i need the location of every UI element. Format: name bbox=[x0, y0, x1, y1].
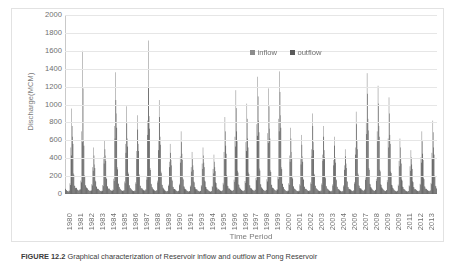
y-axis-tick-label: 600 bbox=[28, 136, 62, 144]
x-axis-tick-label: 1983 bbox=[99, 213, 106, 230]
x-axis-tick-label: 1987 bbox=[143, 213, 150, 230]
y-axis-tick-label: 1600 bbox=[28, 47, 62, 55]
chart-frame: Discharge(MCM) 0200400600800100012001400… bbox=[11, 8, 444, 242]
x-axis-tick-label: 1990 bbox=[176, 213, 183, 230]
y-axis-tick-label: 200 bbox=[28, 172, 62, 180]
x-axis-tick-label: 1980 bbox=[66, 213, 73, 230]
y-axis-tick-label: 1800 bbox=[28, 29, 62, 37]
x-axis-tick-label: 2012 bbox=[417, 213, 424, 230]
x-axis-tick-label: 1998 bbox=[263, 213, 270, 230]
x-axis-tick-label: 2004 bbox=[340, 213, 347, 230]
x-axis-tick-label: 1982 bbox=[88, 213, 95, 230]
x-axis-tick-labels: 1980198119821983198419851986198719881989… bbox=[65, 196, 437, 230]
legend-label: outflow bbox=[297, 48, 321, 57]
x-axis-tick-label: 1985 bbox=[121, 213, 128, 230]
legend-label: inflow bbox=[258, 48, 277, 57]
x-axis-tick-label: 1986 bbox=[132, 213, 139, 230]
x-axis-tick-label: 2006 bbox=[351, 213, 358, 230]
gridline bbox=[65, 176, 437, 177]
legend-entry-inflow[interactable]: inflow bbox=[250, 48, 277, 57]
gridline bbox=[65, 140, 437, 141]
x-axis-tick-label: 2009 bbox=[384, 213, 391, 230]
y-axis-tick-label: 800 bbox=[28, 118, 62, 126]
x-axis-tick-label: 1991 bbox=[187, 213, 194, 230]
x-axis-tick-label: 2001 bbox=[296, 213, 303, 230]
x-axis-tick-label: 2003 bbox=[318, 213, 325, 230]
legend-swatch-icon bbox=[290, 50, 295, 55]
y-axis-tick-label: 1400 bbox=[28, 65, 62, 73]
y-axis-tick-labels: 0200400600800100012001400160018002000 bbox=[28, 15, 62, 194]
x-axis-tick-label: 1996 bbox=[242, 213, 249, 230]
figure-container: Discharge(MCM) 0200400600800100012001400… bbox=[0, 0, 454, 266]
x-axis-tick-label: 1993 bbox=[198, 213, 205, 230]
x-axis-tick-label: 2009 bbox=[395, 213, 402, 230]
x-axis-tick-label: 1999 bbox=[274, 213, 281, 230]
x-axis-tick-label: 2002 bbox=[307, 213, 314, 230]
x-axis-tick-label: 1995 bbox=[220, 213, 227, 230]
gridline bbox=[65, 105, 437, 106]
figure-caption-label: FIGURE 12.2 bbox=[21, 252, 65, 261]
legend-entry-outflow[interactable]: outflow bbox=[290, 48, 322, 57]
gridline bbox=[65, 33, 437, 34]
x-axis-tick-label: 1994 bbox=[209, 213, 216, 230]
y-axis-tick-label: 2000 bbox=[28, 11, 62, 19]
x-axis-tick-label: 2007 bbox=[362, 213, 369, 230]
figure-caption-text: Graphical characterization of Reservoir … bbox=[67, 252, 317, 261]
gridline bbox=[65, 15, 437, 16]
x-axis-tick-label: 1989 bbox=[165, 213, 172, 230]
gridline bbox=[65, 122, 437, 123]
y-axis-tick-label: 1200 bbox=[28, 83, 62, 91]
x-axis-tick-label: 1997 bbox=[252, 213, 259, 230]
x-axis-tick-label: 1988 bbox=[154, 213, 161, 230]
x-axis-tick-label: 1996 bbox=[231, 213, 238, 230]
x-axis-tick-label: 1981 bbox=[77, 213, 84, 230]
x-axis-tick-label: 1984 bbox=[110, 213, 117, 230]
x-axis-tick-label: 2013 bbox=[428, 213, 435, 230]
chart-legend: inflowoutflow bbox=[250, 48, 321, 57]
x-axis-title: Time Period bbox=[65, 232, 437, 241]
figure-caption: FIGURE 12.2 Graphical characterization o… bbox=[21, 252, 441, 266]
x-axis-tick-label: 2003 bbox=[329, 213, 336, 230]
y-axis-tick-label: 0 bbox=[28, 190, 62, 198]
legend-swatch-icon bbox=[250, 50, 255, 55]
x-axis-tick-label: 2000 bbox=[285, 213, 292, 230]
x-axis-tick-label: 2011 bbox=[406, 213, 413, 230]
gridline bbox=[65, 158, 437, 159]
plot-area bbox=[65, 15, 437, 194]
y-axis-tick-label: 400 bbox=[28, 154, 62, 162]
y-axis-tick-label: 1000 bbox=[28, 101, 62, 109]
gridline bbox=[65, 69, 437, 70]
x-axis-tick-label: 2008 bbox=[373, 213, 380, 230]
gridline bbox=[65, 87, 437, 88]
